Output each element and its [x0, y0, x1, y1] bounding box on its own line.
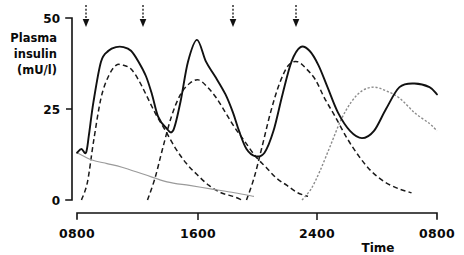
- injection-arrow-3-head: [230, 19, 237, 27]
- x-axis-line: [77, 213, 437, 219]
- injection-arrow-1-head: [83, 19, 90, 27]
- injection-arrow-1: [83, 5, 90, 27]
- y-axis-title-line-3: (mU/l): [17, 63, 57, 77]
- y-axis: [66, 18, 72, 200]
- curve-residual-basal-component: [77, 153, 254, 197]
- y-axis-title-line-2: insulin: [14, 47, 57, 61]
- insulin-profile-figure: 50 25 0 Plasma insulin (mU/l) 0800 1600 …: [0, 0, 464, 255]
- curve-morning-dose-component: [82, 64, 243, 200]
- x-tick-label-1600: 1600: [180, 226, 216, 241]
- curve-total-plasma-insulin: [77, 40, 437, 157]
- curve-evening-dose-component: [247, 61, 412, 200]
- injection-arrow-2: [140, 5, 147, 27]
- y-tick-label-0: 0: [52, 194, 60, 208]
- injection-arrow-3: [230, 5, 237, 27]
- x-tick-label-2400: 2400: [299, 226, 335, 241]
- y-axis-title-line-1: Plasma: [10, 31, 57, 45]
- y-tick-label-25: 25: [43, 103, 60, 117]
- injection-arrow-4-head: [293, 19, 300, 27]
- x-tick-label-0800-end: 0800: [419, 226, 455, 241]
- plot-area: 50 25 0 Plasma insulin (mU/l) 0800 1600 …: [0, 0, 464, 255]
- injection-arrow-4: [293, 5, 300, 27]
- x-axis-title: Time: [362, 241, 395, 255]
- x-tick-label-0800-start: 0800: [59, 226, 95, 241]
- x-axis: [77, 213, 437, 220]
- injection-arrow-group: [83, 5, 300, 27]
- curve-group: [77, 40, 437, 200]
- curve-overnight-dose-component: [302, 87, 437, 200]
- injection-arrow-2-head: [140, 19, 147, 27]
- y-tick-label-50: 50: [43, 12, 60, 26]
